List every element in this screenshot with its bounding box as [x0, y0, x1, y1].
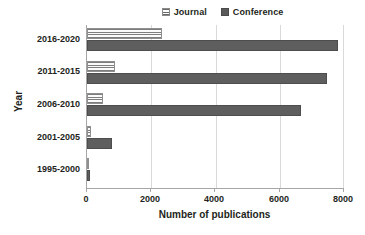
plot-area: [86, 25, 344, 188]
x-tick-label-8000: 8000: [333, 194, 353, 204]
y-axis-labels: 2016-2020 2011-2015 2006-2010 2001-2005 …: [0, 25, 80, 188]
y-tick-label-2001-2005: 2001-2005: [37, 132, 80, 142]
bar-chart: Journal Conference Year 2016-2020 2011-2…: [0, 0, 365, 235]
x-tick-8000: [343, 188, 344, 192]
bar-group-2006-2010: [87, 90, 344, 123]
x-tick-label-0: 0: [83, 194, 88, 204]
x-tick-label-4000: 4000: [204, 194, 224, 204]
bar-journal-2006-2010: [87, 93, 103, 104]
x-tick-6000: [279, 188, 280, 192]
bar-journal-2011-2015: [87, 61, 115, 72]
x-tick-2000: [150, 188, 151, 192]
striped-swatch-icon: [162, 8, 170, 16]
y-tick-label-2006-2010: 2006-2010: [37, 99, 80, 109]
bar-group-2016-2020: [87, 25, 344, 58]
y-tick-label-2016-2020: 2016-2020: [37, 34, 80, 44]
x-tick-label-6000: 6000: [269, 194, 289, 204]
y-tick-label-2011-2015: 2011-2015: [37, 66, 80, 76]
bar-group-2001-2005: [87, 123, 344, 156]
bar-group-1995-2000: [87, 155, 344, 188]
bar-conference-2011-2015: [87, 73, 327, 84]
legend-label-journal: Journal: [174, 7, 207, 17]
bar-conference-2016-2020: [87, 40, 338, 51]
y-tick-label-1995-2000: 1995-2000: [37, 164, 80, 174]
x-tick-label-2000: 2000: [140, 194, 160, 204]
bar-journal-2016-2020: [87, 28, 162, 39]
bar-conference-2001-2005: [87, 138, 112, 149]
bar-group-2011-2015: [87, 58, 344, 91]
x-tick-0: [86, 188, 87, 192]
x-tick-4000: [214, 188, 215, 192]
solid-swatch-icon: [221, 8, 229, 16]
legend-label-conference: Conference: [233, 7, 284, 17]
legend-item-journal: Journal: [162, 7, 207, 17]
bar-conference-2006-2010: [87, 105, 301, 116]
bar-journal-1995-2000: [87, 158, 89, 169]
bar-conference-1995-2000: [87, 170, 90, 181]
x-axis-title: Number of publications: [86, 209, 343, 220]
bar-journal-2001-2005: [87, 126, 91, 137]
legend-item-conference: Conference: [221, 7, 284, 17]
chart-legend: Journal Conference: [0, 7, 365, 17]
